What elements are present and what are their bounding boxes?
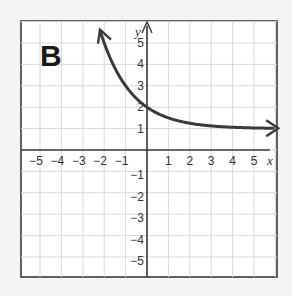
y-tick-label: −5 <box>130 254 144 268</box>
panel-label: B <box>40 39 62 72</box>
y-tick-label: −2 <box>130 190 144 204</box>
y-tick-label: −4 <box>130 233 144 247</box>
graph-panel: −5−4−3−2−11234554321−1−2−3−4−5 B x y <box>0 0 292 296</box>
x-axis-label: x <box>266 153 273 168</box>
x-tick-label: 5 <box>251 154 258 168</box>
x-tick-label: 4 <box>229 154 236 168</box>
y-tick-label: −1 <box>130 168 144 182</box>
y-tick-label: 4 <box>137 57 144 71</box>
y-axis-label: y <box>133 24 141 39</box>
x-tick-label: 2 <box>186 154 193 168</box>
x-tick-label: −5 <box>29 154 43 168</box>
y-tick-label: 3 <box>137 79 144 93</box>
x-tick-label: −3 <box>72 154 86 168</box>
x-tick-label: −1 <box>115 154 129 168</box>
x-tick-label: 3 <box>208 154 215 168</box>
y-tick-label: 1 <box>137 122 144 136</box>
x-tick-label: 1 <box>165 154 172 168</box>
x-tick-label: −4 <box>51 154 65 168</box>
y-tick-label: −3 <box>130 211 144 225</box>
x-tick-label: −2 <box>93 154 107 168</box>
